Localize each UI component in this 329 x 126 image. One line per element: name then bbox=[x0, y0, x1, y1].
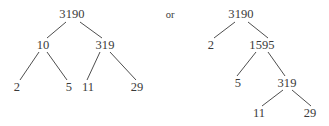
factor-tree-figure: 319010319251129 31902159553191129 or bbox=[0, 0, 329, 126]
right-factor-tree: 31902159553191129 bbox=[0, 0, 329, 126]
tree-edge bbox=[237, 52, 256, 76]
tree-edge bbox=[248, 22, 268, 38]
tree-node-3190: 3190 bbox=[228, 8, 253, 21]
tree-edge bbox=[292, 90, 311, 106]
tree-node-5: 5 bbox=[235, 77, 241, 90]
tree-edge bbox=[262, 90, 283, 106]
or-connector-label: or bbox=[166, 9, 175, 20]
tree-node-29: 29 bbox=[304, 107, 317, 120]
tree-node-2: 2 bbox=[208, 39, 214, 52]
tree-node-11: 11 bbox=[253, 107, 265, 120]
tree-node-1595: 1595 bbox=[249, 39, 274, 52]
tree-edge bbox=[268, 52, 285, 76]
right-tree-edges bbox=[0, 0, 329, 126]
tree-edge bbox=[214, 22, 235, 38]
tree-node-319: 319 bbox=[277, 77, 296, 90]
